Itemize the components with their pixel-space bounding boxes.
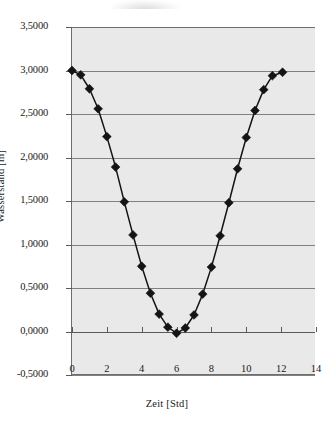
x-axis-title: Zeit [Std] (0, 398, 334, 409)
chart-figure: Wasserstand [m] 3,50003,00002,50002,0000… (0, 0, 334, 432)
data-point-marker (190, 311, 199, 320)
data-point-marker (198, 290, 207, 299)
data-point-marker (94, 104, 103, 113)
data-series-layer (72, 27, 316, 375)
y-axis-tick-label: 1,5000 (0, 194, 48, 205)
data-point-marker (137, 262, 146, 271)
y-axis-tick-label: 3,5000 (0, 20, 48, 31)
y-axis-tick-label: 2,0000 (0, 151, 48, 162)
data-point-marker (233, 164, 242, 173)
gridline (72, 375, 315, 376)
data-point-marker (85, 84, 94, 93)
data-point-marker (163, 323, 172, 332)
data-point-marker (251, 106, 260, 115)
y-axis-tick-label: 0,5000 (0, 281, 48, 292)
y-axis-tick-label: 0,0000 (0, 325, 48, 336)
data-point-marker (155, 310, 164, 319)
data-point-marker (68, 66, 77, 75)
y-axis-tick-label: 2,5000 (0, 107, 48, 118)
y-axis-tick-label: 3,0000 (0, 64, 48, 75)
data-point-marker (76, 70, 85, 79)
data-point-marker (172, 329, 181, 338)
data-point-marker (224, 198, 233, 207)
data-point-marker (259, 85, 268, 94)
series-markers (68, 66, 287, 338)
y-axis-tick (66, 375, 72, 376)
data-point-marker (146, 289, 155, 298)
data-point-marker (102, 132, 111, 141)
data-point-marker (111, 163, 120, 172)
data-point-marker (207, 263, 216, 272)
scan-artifact (110, 0, 180, 9)
y-axis-tick-label: 1,0000 (0, 238, 48, 249)
data-point-marker (120, 197, 129, 206)
data-point-marker (181, 324, 190, 333)
data-point-marker (129, 231, 138, 240)
y-axis-tick-label: -0,5000 (0, 368, 48, 379)
data-point-marker (216, 231, 225, 240)
data-point-marker (268, 71, 277, 80)
plot-area: 3,50003,00002,50002,00001,50001,00000,50… (71, 27, 315, 375)
data-point-marker (242, 133, 251, 142)
data-point-marker (278, 68, 287, 77)
x-axis-tick (316, 327, 317, 332)
